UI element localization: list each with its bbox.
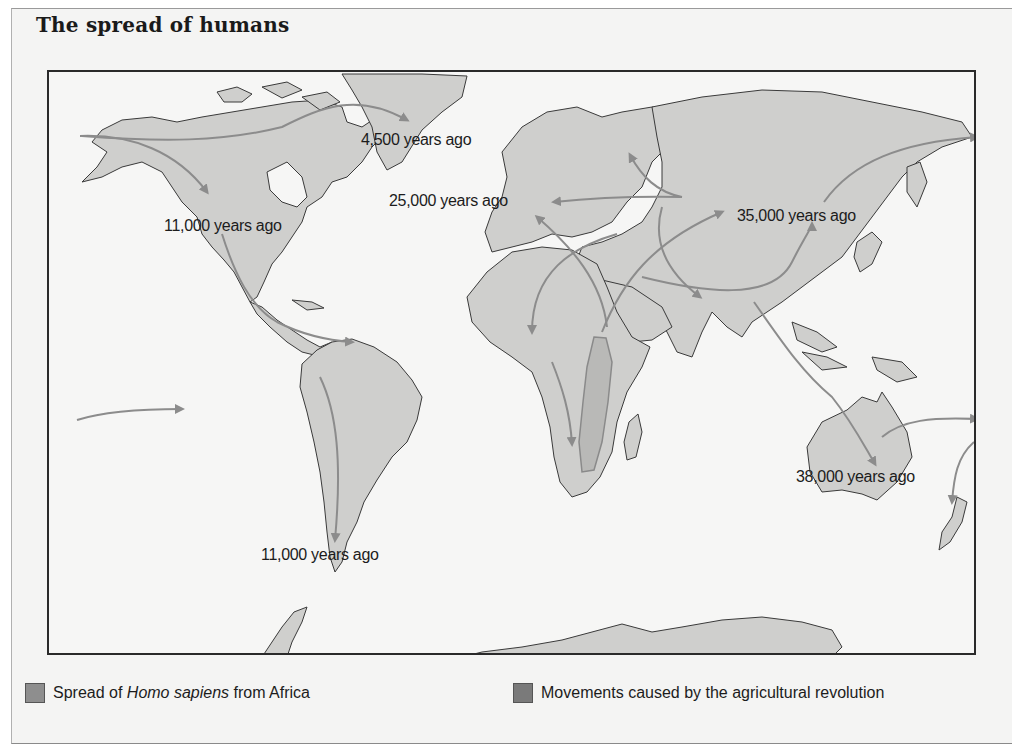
label-europe-date: 25,000 years ago bbox=[389, 192, 508, 210]
legend-label-homo-sapiens: Spread of Homo sapiens from Africa bbox=[53, 684, 310, 702]
legend-swatch-agricultural-revolution bbox=[513, 683, 533, 703]
arrow-to-new-zealand bbox=[952, 442, 974, 502]
landmass-antarctica bbox=[462, 617, 842, 655]
label-north-america-date: 11,000 years ago bbox=[164, 217, 282, 235]
world-map: 4,500 years ago 11,000 years ago 25,000 … bbox=[47, 70, 976, 655]
map-graphic bbox=[49, 72, 976, 655]
label-south-america-date: 11,000 years ago bbox=[261, 546, 379, 564]
legend-item-homo-sapiens: Spread of Homo sapiens from Africa bbox=[25, 683, 310, 703]
legend-swatch-homo-sapiens bbox=[25, 683, 45, 703]
legend-label-agricultural-revolution: Movements caused by the agricultural rev… bbox=[541, 684, 884, 702]
label-east-asia-date: 35,000 years ago bbox=[737, 207, 856, 225]
label-australia-date: 38,000 years ago bbox=[796, 468, 915, 486]
landmass-south-america bbox=[300, 339, 422, 572]
arrow-pacific bbox=[77, 409, 182, 420]
label-greenland-date: 4,500 years ago bbox=[361, 131, 471, 149]
landmass-north-america bbox=[82, 100, 387, 302]
legend-item-agricultural-revolution: Movements caused by the agricultural rev… bbox=[513, 683, 884, 703]
figure-title: The spread of humans bbox=[36, 13, 289, 37]
